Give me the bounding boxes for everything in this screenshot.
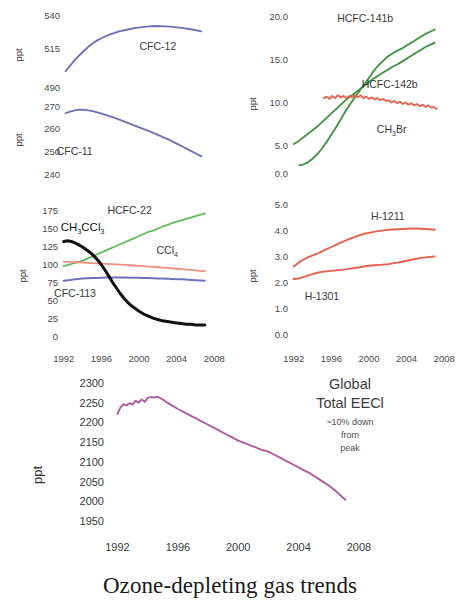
ytick-2100: 2100 (80, 456, 104, 468)
xtick-1996: 1996 (91, 353, 112, 364)
panel-eecl: 19502000205021002150220022502300 ppt Glo… (0, 365, 460, 575)
cfc12-axis: 540 515 490 ppt (13, 10, 60, 93)
ytick-260: 260 (44, 123, 60, 134)
ytick-100: 100 (42, 259, 58, 270)
xaxis-multi: 19921996200020042008 (53, 353, 225, 364)
series-cfc12-line (66, 26, 202, 71)
ytick-1950: 1950 (80, 515, 104, 527)
series-cfc113-line (64, 278, 205, 281)
ytick-10: 10.0 (270, 97, 289, 108)
ytick-0: 0 (53, 331, 58, 342)
ylabel-multi: ppt (17, 269, 28, 283)
multi-panel-svg: 175 150 125 100 75 50 25 0 ppt HCFC-22 C… (0, 190, 230, 370)
panel-hcfc: 20.0 15.0 10.0 5.0 0.0 ppt HCFC-141b HCF… (230, 0, 460, 190)
series-label-ch3br: CH3Br (377, 123, 407, 137)
series-ch3ccl3-line (64, 241, 205, 325)
xtick-2008: 2008 (434, 353, 455, 364)
ytick-25: 25 (47, 313, 58, 324)
ytick-4: 4.0 (275, 225, 288, 236)
panel-halon: 5.0 4.0 3.0 2.0 1.0 0.0 ppt H-1211 H-130… (230, 190, 460, 370)
series-ccl4-line (64, 262, 205, 272)
xtick-1996: 1996 (166, 541, 190, 553)
ylabel-hcfc: ppt (247, 97, 258, 111)
xtick-1992: 1992 (283, 353, 304, 364)
xtick-1996: 1996 (321, 353, 342, 364)
ozone-gas-trends-figure: 540 515 490 ppt CFC-12 270 260 250 240 p… (0, 0, 460, 611)
annotation-global: Global (329, 376, 371, 392)
annotation-from: from (341, 430, 359, 440)
ytick-175: 175 (42, 205, 58, 216)
ytick-0: 0.0 (275, 329, 288, 340)
ytick-240: 240 (44, 169, 60, 180)
ytick-2250: 2250 (80, 397, 104, 409)
eecl-panel-svg: 19502000205021002150220022502300 ppt Glo… (0, 365, 460, 575)
xtick-2004: 2004 (166, 353, 187, 364)
ylabel-cfc11: ppt (13, 133, 24, 147)
ytick-2050: 2050 (80, 476, 104, 488)
annotation-total-eecl: Total EECl (316, 395, 384, 411)
xtick-2008: 2008 (204, 353, 225, 364)
series-label-cfc113: CFC-113 (54, 287, 96, 299)
ytick-2200: 2200 (80, 416, 104, 428)
ytick-3: 3.0 (275, 251, 288, 262)
series-label-cfc11: CFC-11 (57, 145, 93, 157)
ylabel-eecl: ppt (30, 466, 45, 484)
xtick-2004: 2004 (286, 541, 310, 553)
halon-panel-svg: 5.0 4.0 3.0 2.0 1.0 0.0 ppt H-1211 H-130… (230, 190, 460, 370)
ytick-5: 5.0 (275, 199, 288, 210)
halon-axis: 5.0 4.0 3.0 2.0 1.0 0.0 ppt (247, 199, 288, 340)
series-label-h1301: H-1301 (305, 290, 340, 302)
panel-multi: 175 150 125 100 75 50 25 0 ppt HCFC-22 C… (0, 190, 230, 370)
annotation-percent-down: ~10% down (326, 417, 373, 427)
ytick-5: 5.0 (275, 140, 288, 151)
ytick-1: 1.0 (275, 303, 288, 314)
cfc-panel-svg: 540 515 490 ppt CFC-12 270 260 250 240 p… (0, 0, 230, 190)
hcfc-axis: 20.0 15.0 10.0 5.0 0.0 ppt (247, 11, 288, 179)
series-ch3br-line (324, 95, 437, 109)
series-h1211-line (294, 228, 435, 266)
ytick-15: 15.0 (270, 54, 289, 65)
ytick-2300: 2300 (80, 377, 104, 389)
ytick-0: 0.0 (275, 168, 288, 179)
annotation-peak: peak (340, 443, 360, 453)
xtick-2000: 2000 (226, 541, 250, 553)
xaxis-halon: 19921996200020042008 (283, 353, 455, 364)
xtick-1992: 1992 (53, 353, 74, 364)
figure-title: Ozone-depleting gas trends (0, 573, 460, 599)
xtick-2004: 2004 (396, 353, 417, 364)
ytick-2000: 2000 (80, 495, 104, 507)
ylabel-cfc12: ppt (13, 48, 24, 62)
series-label-cfc12: CFC-12 (140, 40, 177, 52)
ytick-540: 540 (44, 10, 60, 21)
multi-axis: 175 150 125 100 75 50 25 0 ppt (17, 205, 58, 342)
ytick-150: 150 (42, 223, 58, 234)
xaxis-eecl: 19921996200020042008 (105, 541, 371, 553)
ytick-125: 125 (42, 241, 58, 252)
ytick-270: 270 (44, 101, 60, 112)
ytick-20: 20.0 (270, 11, 289, 22)
xtick-2008: 2008 (347, 541, 371, 553)
eecl-annotation: Global Total EECl ~10% down from peak (316, 376, 384, 453)
series-label-h1211: H-1211 (371, 210, 405, 222)
xtick-2000: 2000 (128, 353, 149, 364)
xtick-1992: 1992 (105, 541, 129, 553)
yaxis-eecl: 19502000205021002150220022502300 (80, 377, 104, 527)
series-eecl-line (118, 397, 346, 500)
series-label-hcfc22: HCFC-22 (107, 204, 151, 216)
hcfc-panel-svg: 20.0 15.0 10.0 5.0 0.0 ppt HCFC-141b HCF… (230, 0, 460, 190)
ytick-2150: 2150 (80, 436, 104, 448)
series-label-hcfc141b: HCFC-141b (337, 12, 393, 24)
ytick-490: 490 (44, 82, 60, 93)
ytick-2: 2.0 (275, 277, 288, 288)
series-label-ccl4: CCl4 (156, 244, 178, 258)
series-h1301-line (294, 256, 435, 279)
xtick-2000: 2000 (358, 353, 379, 364)
ylabel-halon: ppt (247, 269, 258, 283)
series-label-ch3ccl3: CH3CCl3 (61, 221, 105, 235)
ytick-515: 515 (44, 43, 60, 54)
panel-cfc: 540 515 490 ppt CFC-12 270 260 250 240 p… (0, 0, 230, 190)
series-hcfc142b-line (294, 43, 435, 144)
cfc11-axis: 270 260 250 240 ppt (13, 101, 60, 180)
series-label-hcfc142b: HCFC-142b (362, 78, 418, 90)
